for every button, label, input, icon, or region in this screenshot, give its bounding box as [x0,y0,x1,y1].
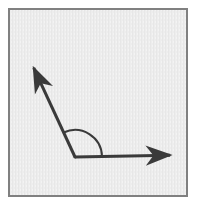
angle-diagram-figure [0,0,197,207]
angle-vertex [74,156,77,159]
diagram-canvas [0,0,197,207]
diagram-panel-background [9,9,187,196]
horizontal-ray [75,155,170,157]
